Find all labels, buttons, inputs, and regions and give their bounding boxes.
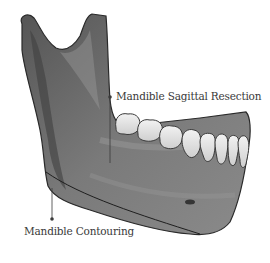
tooth: [215, 134, 228, 164]
mental-foramen: [185, 200, 195, 205]
mandible-illustration: [0, 0, 270, 263]
label-sagittal-resection: Mandible Sagittal Resection: [116, 90, 261, 102]
mandible-diagram: Mandible Sagittal Resection Mandible Con…: [0, 0, 270, 263]
tooth: [138, 120, 163, 142]
tooth: [116, 114, 140, 135]
label-contouring: Mandible Contouring: [24, 225, 134, 237]
tooth: [160, 126, 183, 149]
